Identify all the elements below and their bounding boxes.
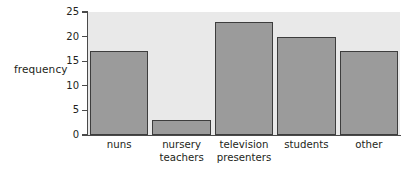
bar [90, 51, 148, 135]
y-tick-label: 20 [58, 32, 79, 42]
y-tick-label: 15 [58, 56, 79, 66]
y-tick-mark [82, 61, 87, 62]
y-tick-mark [82, 110, 87, 111]
y-tick-label: 10 [58, 81, 79, 91]
bar-chart-figure: frequency 0510152025 nunsnursery teacher… [0, 0, 418, 169]
y-tick-label: 25 [58, 7, 79, 17]
bar [340, 51, 398, 135]
x-axis-line [83, 135, 401, 136]
x-tick-label: other [332, 139, 406, 152]
y-tick-mark [82, 85, 87, 86]
y-tick-mark [82, 36, 87, 37]
y-tick-mark [82, 134, 87, 135]
y-axis-line [87, 11, 88, 136]
y-tick-mark [82, 11, 87, 12]
bar [277, 37, 335, 135]
y-tick-label: 0 [58, 130, 79, 140]
bar [215, 22, 273, 135]
y-tick-label: 5 [58, 105, 79, 115]
bar [152, 120, 210, 135]
